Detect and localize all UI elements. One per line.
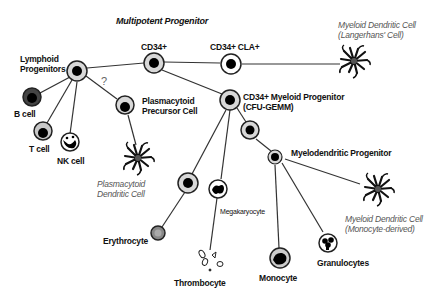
erythrocyte-label: Erythrocyte bbox=[103, 236, 148, 246]
erythroid-progenitor-cell bbox=[178, 173, 198, 193]
monocyte-derived-dendritic-cell-icon bbox=[364, 173, 394, 206]
myeloid-intermediate-cell bbox=[241, 121, 259, 139]
monocyte-dc-label-line1: Myeloid Dendritic Cell bbox=[345, 214, 423, 224]
plasmacytoid-dc-label-line1: Plasmacytoid bbox=[97, 179, 145, 189]
monocyte-cell bbox=[270, 248, 290, 268]
lymphoid-progenitor-cell bbox=[67, 61, 87, 81]
thrombocyte-label: Thrombocyte bbox=[174, 278, 226, 288]
myelodendritic-progenitor-cell bbox=[268, 150, 282, 164]
t-cell-label: T cell bbox=[29, 144, 50, 154]
plasmacytoid-precursor-label-line1: Plasmacytoid bbox=[142, 96, 194, 106]
plasmacytoid-dendritic-cell-icon bbox=[124, 142, 154, 175]
langerhans-label-line1: Myeloid Dendritic Cell bbox=[338, 20, 416, 30]
monocyte-dc-label-line2: (Monocyte-derived) bbox=[345, 224, 415, 234]
uncertain-question-mark: ? bbox=[101, 76, 107, 86]
granulocyte-cell bbox=[319, 234, 337, 252]
langerhans-dendritic-cell-icon bbox=[340, 45, 370, 78]
langerhans-label-line2: (Langerhans' Cell) bbox=[338, 30, 404, 40]
cd34-label: CD34+ bbox=[141, 42, 167, 52]
b-cell-label: B cell bbox=[14, 109, 35, 119]
plasmacytoid-dc-label-line2: Dendritic Cell bbox=[97, 189, 145, 199]
nk-cell bbox=[61, 133, 79, 151]
t-cell bbox=[34, 122, 52, 140]
lymphoid-label-line2: Progenitors bbox=[20, 64, 66, 74]
monocyte-label: Monocyte bbox=[259, 273, 297, 283]
megakaryocyte-cell bbox=[209, 180, 227, 198]
plasmacytoid-precursor-cell bbox=[116, 96, 134, 114]
b-cell bbox=[23, 88, 41, 106]
plasmacytoid-precursor-label-line2: Precursor Cell bbox=[142, 106, 197, 116]
erythrocyte-cell bbox=[151, 226, 165, 240]
lymphoid-label-line1: Lymphoid bbox=[20, 54, 59, 64]
megakaryocyte-label: Megakaryocyte bbox=[220, 207, 265, 217]
granulocytes-label: Granulocytes bbox=[317, 258, 369, 268]
thrombocyte-fragments bbox=[198, 249, 223, 271]
cd34-cla-label: CD34+ CLA+ bbox=[210, 42, 260, 52]
myeloid-progenitor-label-line2: (CFU-GEMM) bbox=[243, 102, 293, 112]
myeloid-progenitor-cell bbox=[220, 90, 240, 110]
myelodendritic-label: Myelodendritic Progenitor bbox=[291, 148, 391, 158]
nk-cell-label: NK cell bbox=[57, 156, 84, 166]
cd34-cell bbox=[144, 53, 164, 73]
diagram-title: Multipotent Progenitor bbox=[116, 16, 208, 26]
cd34-cla-cell bbox=[221, 54, 241, 74]
myeloid-progenitor-label-line1: CD34+ Myeloid Progenitor bbox=[243, 92, 344, 102]
